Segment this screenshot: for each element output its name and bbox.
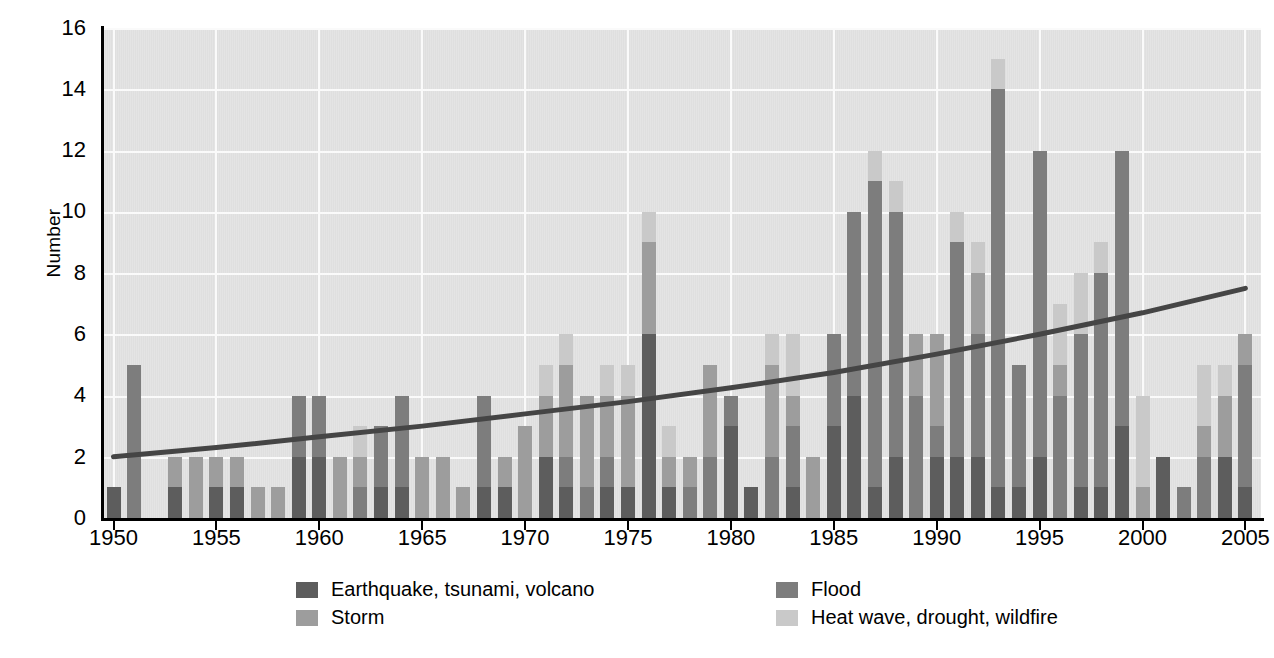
bar-segment <box>1115 151 1129 427</box>
bar-segment <box>518 426 532 518</box>
bar <box>889 181 903 518</box>
y-tick-label: 4 <box>42 384 86 406</box>
legend-label: Storm <box>331 606 384 629</box>
bar <box>1218 365 1232 518</box>
y-tick-label: 14 <box>42 78 86 100</box>
bar-segment <box>1218 396 1232 457</box>
bar-segment <box>374 487 388 518</box>
legend-label: Earthquake, tsunami, volcano <box>331 578 595 601</box>
bar-segment <box>827 334 841 426</box>
bar <box>209 457 223 518</box>
bar <box>539 365 553 518</box>
bar <box>168 457 182 518</box>
y-tick-label: 8 <box>42 262 86 284</box>
bar-segment <box>971 273 985 334</box>
legend-item-storm[interactable]: Storm <box>296 606 384 629</box>
bar-segment <box>1197 426 1211 457</box>
legend-swatch-icon <box>776 582 798 598</box>
bar-segment <box>765 365 779 457</box>
x-tick-label: 1975 <box>588 527 668 549</box>
bar <box>415 457 429 518</box>
bar <box>950 212 964 518</box>
bar-segment <box>724 426 738 518</box>
bar <box>456 487 470 518</box>
x-tick-mark <box>215 521 217 530</box>
legend-label: Flood <box>811 578 861 601</box>
x-tick-mark <box>113 521 115 530</box>
bar-segment <box>498 487 512 518</box>
bar <box>1012 365 1026 518</box>
x-tick-mark <box>524 521 526 530</box>
bar-segment <box>1136 487 1150 518</box>
bar-segment <box>1218 457 1232 518</box>
bar-segment <box>189 457 203 518</box>
bar <box>1136 396 1150 519</box>
x-tick-mark <box>1142 521 1144 530</box>
bar-segment <box>703 457 717 518</box>
bar-segment <box>168 457 182 488</box>
legend-swatch-icon <box>296 610 318 626</box>
bar-segment <box>930 334 944 426</box>
bar-segment <box>662 426 676 457</box>
bar-segment <box>271 487 285 518</box>
bar-segment <box>786 426 800 487</box>
bar <box>127 365 141 518</box>
bar-segment <box>1053 365 1067 396</box>
bar-segment <box>1197 457 1211 518</box>
bar-segment <box>1094 487 1108 518</box>
bar-segment <box>539 457 553 518</box>
bar-segment <box>930 426 944 457</box>
bar-segment <box>642 212 656 243</box>
bar-segment <box>600 365 614 396</box>
bar <box>333 457 347 518</box>
bar <box>1033 151 1047 519</box>
bar <box>189 457 203 518</box>
bar-segment <box>1033 457 1047 518</box>
bar-segment <box>971 334 985 457</box>
x-tick-label: 1990 <box>897 527 977 549</box>
bar-segment <box>209 457 223 488</box>
bar-segment <box>1238 334 1252 365</box>
x-tick-mark <box>1244 521 1246 530</box>
bar-segment <box>353 487 367 518</box>
bar-segment <box>1115 426 1129 518</box>
bar-segment <box>209 487 223 518</box>
legend-item-earthquake[interactable]: Earthquake, tsunami, volcano <box>296 578 595 601</box>
bar <box>1197 365 1211 518</box>
bar <box>991 59 1005 518</box>
bar-segment <box>1012 487 1026 518</box>
gridline-vertical <box>215 28 217 518</box>
bar-segment <box>765 334 779 365</box>
bar-segment <box>312 457 326 518</box>
bar-segment <box>991 487 1005 518</box>
x-tick-label: 1980 <box>691 527 771 549</box>
bar-segment <box>642 242 656 334</box>
bar-segment <box>477 396 491 488</box>
x-tick-label: 1985 <box>794 527 874 549</box>
bar <box>312 396 326 519</box>
bar <box>271 487 285 518</box>
legend-item-heatwave[interactable]: Heat wave, drought, wildfire <box>776 606 1058 629</box>
bar-segment <box>353 426 367 457</box>
gridline-vertical <box>421 28 423 518</box>
bar-segment <box>251 487 265 518</box>
bar-segment <box>703 365 717 457</box>
legend-item-flood[interactable]: Flood <box>776 578 861 601</box>
x-tick-mark <box>833 521 835 530</box>
bar <box>498 457 512 518</box>
bar <box>806 457 820 518</box>
x-axis-line <box>101 518 1264 521</box>
bar <box>1074 273 1088 518</box>
bar <box>847 212 861 518</box>
plot-area <box>104 28 1261 518</box>
bar <box>395 396 409 519</box>
bar-segment <box>683 457 697 488</box>
bar-segment <box>1177 487 1191 518</box>
bar-segment <box>889 212 903 457</box>
bar <box>765 334 779 518</box>
bar <box>744 487 758 518</box>
bar-segment <box>456 487 470 518</box>
bar-segment <box>436 457 450 518</box>
bar-segment <box>868 181 882 487</box>
